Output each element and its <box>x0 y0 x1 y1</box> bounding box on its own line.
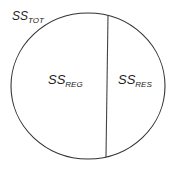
ss-tot-label: SSTOT <box>12 10 44 25</box>
partition-line <box>106 15 108 157</box>
ss-res-label: SSRES <box>118 73 152 89</box>
venn-partition-diagram <box>0 0 182 173</box>
ss-reg-label: SSREG <box>48 73 83 89</box>
